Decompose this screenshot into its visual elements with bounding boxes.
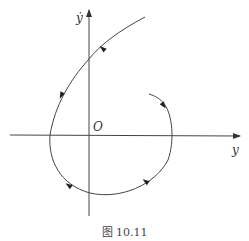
figure-caption: 图 10.11 bbox=[0, 223, 249, 239]
phase-plane-diagram: ẏ O y bbox=[0, 0, 249, 241]
direction-arrow-icon bbox=[57, 91, 64, 99]
x-axis bbox=[10, 135, 240, 136]
y-axis-label: ẏ bbox=[75, 11, 83, 25]
trajectory-curve bbox=[50, 17, 172, 195]
x-axis-label: y bbox=[231, 143, 239, 157]
origin-label: O bbox=[93, 120, 103, 134]
direction-arrow-icon bbox=[141, 177, 150, 185]
